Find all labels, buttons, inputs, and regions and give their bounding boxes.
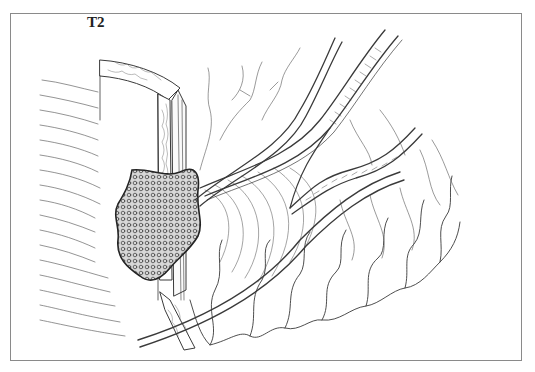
- tumor-mass: [116, 169, 201, 280]
- bowel-haustra: [190, 176, 460, 345]
- mesentery-arcs: [205, 168, 316, 282]
- right-branch-vessel: [290, 128, 422, 214]
- bowel-illustration: [0, 0, 535, 372]
- mesenteric-vessels: [200, 48, 458, 260]
- wall-folds: [40, 80, 125, 336]
